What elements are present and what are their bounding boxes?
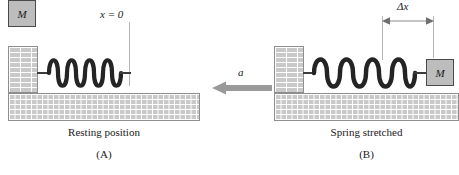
mass-label-b: M: [435, 67, 444, 79]
mass-block-b: M: [426, 59, 454, 86]
acceleration-label: a: [238, 66, 244, 78]
spring-a-relaxed: [47, 54, 123, 92]
wall-brick-a: [8, 46, 38, 93]
delta-x-label: Δx: [397, 0, 408, 12]
base-brick-a: [8, 93, 200, 121]
delta-x-dimension-arrow: [382, 12, 434, 30]
panel-b-spring-stretched: Δx M Spring stretched (B): [258, 0, 458, 175]
panel-tag-a: (A): [8, 148, 200, 160]
mass-label-a: M: [17, 8, 26, 20]
panel-tag-b: (B): [274, 148, 459, 160]
spring-b-stretched: [312, 53, 417, 93]
mass-block-a: M: [8, 0, 36, 27]
spring-mass-rod-a: [120, 72, 131, 74]
wall-brick-b: [274, 46, 304, 93]
panel-a-resting-position: x = 0 M Resting position (A): [8, 0, 208, 175]
base-brick-b: [274, 93, 459, 121]
x-zero-label: x = 0: [100, 8, 123, 20]
spring-mass-rod-b: [413, 72, 427, 74]
figure-canvas: x = 0 M Resting position (A) a: [0, 0, 459, 175]
caption-a: Resting position: [8, 126, 200, 138]
x-zero-guide-line: [129, 22, 130, 86]
caption-b: Spring stretched: [274, 126, 459, 138]
